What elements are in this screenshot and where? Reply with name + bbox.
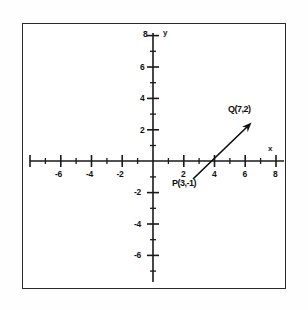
x-tick-label-pos8: 8 (273, 170, 277, 179)
y-tick-label-pos2: 2 (140, 126, 144, 135)
x-tick-label-pos4: 4 (212, 170, 216, 179)
y-tick-label-pos8: 8 (143, 30, 147, 39)
y-axis-label: y (163, 29, 167, 37)
y-tick-label-neg4: -4 (134, 220, 141, 229)
figure-page: y x -6 -4 -2 2 4 6 8 8 6 4 2 -2 -4 -6 P(… (0, 0, 308, 310)
x-tick-label-neg6: -6 (55, 170, 62, 179)
y-tick-label-pos6: 6 (140, 63, 144, 72)
y-tick-label-neg2: -2 (134, 188, 141, 197)
point-label-p: P(3,-1) (172, 179, 196, 188)
x-tick-label-neg4: -4 (86, 170, 93, 179)
coordinate-plane (0, 0, 308, 310)
x-axis-label: x (268, 145, 272, 153)
y-tick-label-neg6: -6 (134, 251, 141, 260)
x-tick-label-neg2: -2 (117, 170, 124, 179)
y-tick-label-pos4: 4 (140, 94, 144, 103)
x-tick-label-pos6: 6 (243, 170, 247, 179)
point-label-q: Q(7,2) (228, 105, 251, 114)
